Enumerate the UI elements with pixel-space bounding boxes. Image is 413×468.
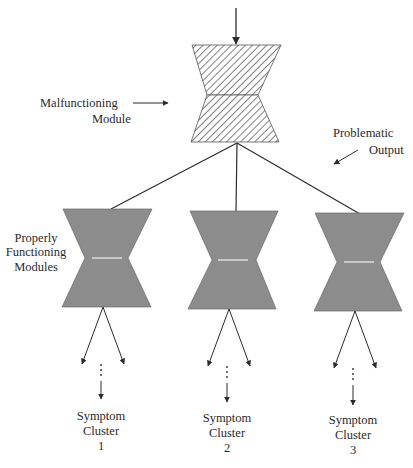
symptom-cluster-3-number: 3 bbox=[350, 443, 356, 458]
malfunctioning-label-line2: Module bbox=[92, 112, 131, 127]
symptom-cluster-2-number: 2 bbox=[224, 441, 230, 456]
problematic-output-label-line1: Problematic bbox=[333, 126, 393, 141]
functioning-modules-label-line2: Functioning bbox=[6, 245, 66, 260]
symptom-cluster-3-line2: Cluster bbox=[335, 428, 371, 443]
symptom-cluster-2-line1: Symptom bbox=[203, 411, 252, 426]
ellipsis-dots-1 bbox=[100, 364, 102, 376]
functioning-module-1 bbox=[62, 209, 152, 307]
symptom-cluster-1-line1: Symptom bbox=[77, 409, 126, 424]
symptom-cluster-3-line1: Symptom bbox=[329, 413, 378, 428]
functioning-modules-label-line1: Properly bbox=[14, 231, 57, 246]
output-connectors bbox=[111, 143, 360, 214]
symptom-cluster-1-number: 1 bbox=[98, 439, 104, 454]
ellipsis-dots-2 bbox=[226, 366, 228, 378]
malfunctioning-label-line1: Malfunctioning bbox=[40, 96, 118, 111]
problematic-output-arrow bbox=[334, 150, 358, 164]
symptom-cluster-2-line2: Cluster bbox=[209, 426, 245, 441]
ellipsis-dots-3 bbox=[352, 368, 354, 380]
functioning-module-3 bbox=[314, 213, 404, 311]
module-diagram bbox=[0, 0, 413, 468]
symptom-arrows-2 bbox=[208, 309, 250, 402]
malfunctioning-module bbox=[191, 45, 281, 142]
functioning-modules-label-line3: Modules bbox=[14, 260, 58, 275]
symptom-cluster-1-line2: Cluster bbox=[83, 424, 119, 439]
problematic-output-label-line2: Output bbox=[369, 143, 404, 158]
symptom-arrows-3 bbox=[334, 311, 376, 405]
functioning-module-2 bbox=[188, 211, 278, 309]
symptom-arrows-1 bbox=[82, 307, 124, 399]
